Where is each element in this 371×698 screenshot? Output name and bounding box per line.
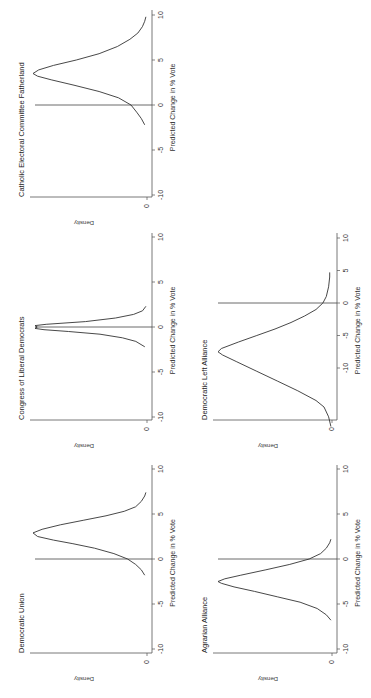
x-tick-label: 10 (157, 233, 164, 241)
x-tick-label: -5 (342, 601, 349, 607)
y-tick-label: 0 (143, 204, 150, 208)
x-tick-label: 10 (157, 465, 164, 473)
x-axis-title: Predicted Change in % Vote (169, 64, 177, 152)
y-axis-title: Density (74, 443, 94, 449)
x-tick-label: 5 (157, 280, 164, 284)
x-tick-label: 10 (157, 11, 164, 19)
density-curve (33, 17, 146, 125)
x-tick-label: 10 (342, 465, 349, 473)
y-tick-label: 0 (328, 660, 335, 664)
x-tick-label: -5 (157, 601, 164, 607)
density-curve (35, 306, 146, 347)
x-tick-label: 5 (342, 268, 349, 272)
x-tick-label: -10 (342, 644, 349, 654)
density-plots-figure: 0-10-50510Predicted Change in % VoteDens… (0, 0, 371, 698)
x-tick-label: -5 (157, 369, 164, 375)
y-tick-label: 0 (143, 660, 150, 664)
panel-title: Democratic Union (17, 593, 26, 653)
x-tick-label: 0 (157, 103, 164, 107)
x-tick-label: 5 (157, 512, 164, 516)
x-axis-title: Predicted Change in % Vote (354, 287, 362, 375)
y-axis-title: Density (74, 220, 94, 226)
panel-aa: 0-10-50510Predicted Change in % VoteDens… (200, 465, 362, 682)
density-curve (218, 539, 331, 620)
x-tick-label: 0 (157, 557, 164, 561)
density-curve (218, 272, 331, 426)
x-tick-label: -5 (342, 332, 349, 338)
x-tick-label: 0 (157, 325, 164, 329)
x-tick-label: -10 (157, 412, 164, 422)
panel-cld: 0-10-50510Predicted Change in % VoteDens… (17, 233, 177, 449)
y-axis-title: Density (258, 676, 278, 682)
panel-du: 0-10-50510Predicted Change in % VoteDens… (17, 465, 177, 682)
x-tick-label: -10 (157, 644, 164, 654)
y-tick-label: 0 (143, 427, 150, 431)
panel-title: Democratic Left Alliance (200, 340, 209, 420)
y-axis-title: Density (258, 443, 278, 449)
panel-catholic: 0-10-50510Predicted Change in % VoteDens… (17, 10, 177, 226)
y-tick-label: 0 (328, 427, 335, 431)
x-tick-label: 10 (342, 234, 349, 242)
density-curve (33, 492, 146, 575)
panel-title: Catholic Electoral Committee Fatherland (17, 62, 26, 197)
x-tick-label: -10 (157, 190, 164, 200)
x-axis-title: Predicted Change in % Vote (169, 519, 177, 607)
x-tick-label: 0 (342, 301, 349, 305)
x-tick-label: -5 (157, 147, 164, 153)
x-tick-label: -10 (342, 363, 349, 373)
panel-title: Agrarian Alliance (200, 597, 209, 653)
x-tick-label: 5 (342, 512, 349, 516)
panel-dla: 0-10-50510Predicted Change in % VoteDens… (200, 233, 362, 449)
x-axis-title: Predicted Change in % Vote (354, 519, 362, 607)
panel-title: Congress of Liberal Democrats (17, 316, 26, 420)
x-tick-label: 0 (342, 557, 349, 561)
x-tick-label: 5 (157, 58, 164, 62)
x-axis-title: Predicted Change in % Vote (169, 287, 177, 375)
y-axis-title: Density (74, 676, 94, 682)
